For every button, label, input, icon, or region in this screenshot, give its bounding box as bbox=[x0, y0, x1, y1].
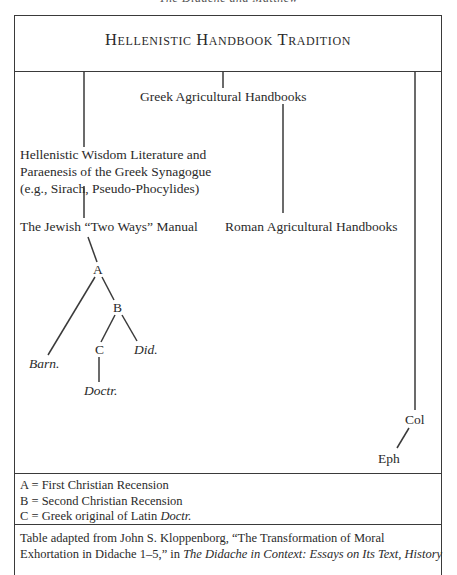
source-line-1: Table adapted from John S. Kloppenborg, … bbox=[20, 530, 440, 546]
source-note: Table adapted from John S. Kloppenborg, … bbox=[20, 530, 440, 562]
node-a: A bbox=[93, 261, 103, 278]
legend-item-c: C = Greek original of Latin Doctr. bbox=[20, 509, 191, 525]
node-hellenistic-wisdom-line2: Paraenesis of the Greek Synagogue bbox=[20, 163, 211, 180]
node-c: C bbox=[95, 341, 104, 358]
legend-item-b: B = Second Christian Recension bbox=[20, 494, 191, 510]
node-barn: Barn. bbox=[29, 355, 59, 372]
node-doctr: Doctr. bbox=[84, 382, 117, 399]
node-hellenistic-wisdom-line1: Hellenistic Wisdom Literature and bbox=[20, 146, 206, 163]
node-col: Col bbox=[405, 411, 425, 428]
node-did: Did. bbox=[134, 341, 158, 358]
node-roman-agricultural-handbooks: Roman Agricultural Handbooks bbox=[225, 218, 397, 235]
node-greek-agricultural-handbooks: Greek Agricultural Handbooks bbox=[140, 88, 306, 105]
legend: A = First Christian Recension B = Second… bbox=[20, 478, 191, 525]
node-jewish-two-ways-manual: The Jewish “Two Ways” Manual bbox=[20, 218, 198, 235]
legend-item-a: A = First Christian Recension bbox=[20, 478, 191, 494]
node-hellenistic-wisdom-line3: (e.g., Sirach, Pseudo-Phocylides) bbox=[20, 180, 199, 197]
source-line-2: Exhortation in Didache 1–5,” in The Dida… bbox=[20, 546, 440, 562]
node-eph: Eph bbox=[378, 450, 400, 467]
node-b: B bbox=[113, 299, 122, 316]
